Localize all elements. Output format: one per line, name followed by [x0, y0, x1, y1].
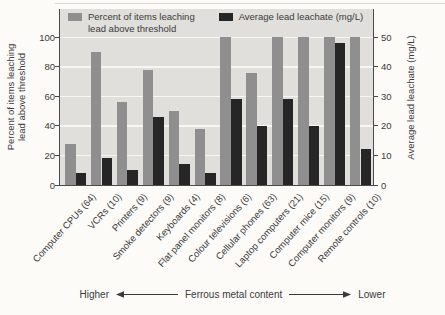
bar-leachate-3 [153, 117, 164, 185]
left-tick-80 [55, 66, 59, 67]
right-tick-10 [374, 155, 378, 156]
bar-leachate-6 [231, 99, 242, 185]
plot-area [59, 9, 373, 185]
bar-leachate-0 [76, 173, 87, 185]
left-tick-40 [55, 125, 59, 126]
right-tick-0 [374, 185, 378, 186]
bar-leachate-7 [257, 126, 268, 185]
right-tick-40 [374, 66, 378, 67]
leachate-series-swatch [219, 13, 233, 21]
left-axis-title-line2: lead above threshold [16, 27, 27, 167]
legend-percent-label: Percent of items leaching lead above thr… [88, 11, 195, 34]
bar-percent-2 [117, 102, 128, 185]
left-tick-label-40: 40 [28, 120, 55, 131]
bar-percent-4 [169, 111, 180, 185]
left-axis-title-line1: Percent of items leaching [5, 27, 16, 167]
right-tick-label-0: 0 [381, 180, 408, 191]
arrow-right-icon [289, 290, 351, 299]
legend: Percent of items leaching lead above thr… [68, 11, 363, 34]
lead-leachate-chart: Percent of items leaching lead above thr… [0, 0, 445, 315]
left-tick-label-20: 20 [28, 150, 55, 161]
right-tick-label-40: 40 [381, 61, 408, 72]
left-tick-label-60: 60 [28, 91, 55, 102]
left-tick-100 [55, 37, 59, 38]
right-tick-30 [374, 96, 378, 97]
bar-percent-7 [246, 73, 257, 185]
page-edge-line [55, 3, 445, 4]
bar-percent-9 [298, 37, 309, 185]
bar-leachate-2 [127, 170, 138, 185]
bar-leachate-9 [309, 126, 320, 185]
right-tick-label-30: 30 [381, 91, 408, 102]
footer-higher-label: Higher [80, 289, 109, 300]
legend-percent-line2: lead above threshold [88, 23, 195, 35]
right-tick-label-10: 10 [381, 150, 408, 161]
arrow-left-icon [116, 290, 178, 299]
bar-leachate-4 [179, 164, 190, 185]
right-tick-label-50: 50 [381, 32, 408, 43]
percent-series-swatch [68, 13, 82, 21]
legend-percent-line1: Percent of items leaching [88, 11, 195, 23]
legend-item-percent: Percent of items leaching lead above thr… [68, 11, 195, 34]
bar-leachate-10 [335, 43, 346, 185]
left-tick-20 [55, 155, 59, 156]
right-tick-50 [374, 37, 378, 38]
bar-leachate-5 [205, 173, 216, 185]
left-tick-0 [55, 185, 59, 186]
bar-percent-6 [220, 37, 231, 185]
bar-percent-0 [65, 144, 76, 185]
bar-leachate-1 [102, 158, 113, 185]
left-axis-title: Percent of items leaching lead above thr… [5, 27, 27, 167]
y-axis-left-line [59, 9, 60, 186]
bar-percent-11 [350, 37, 361, 185]
legend-leachate-label: Average lead leachate (mg/L) [239, 11, 363, 23]
right-tick-20 [374, 125, 378, 126]
bar-leachate-11 [361, 149, 372, 185]
right-tick-label-20: 20 [381, 120, 408, 131]
ferrous-content-annotation: Higher Ferrous metal content Lower [50, 289, 415, 300]
left-tick-label-0: 0 [28, 180, 55, 191]
legend-item-leachate: Average lead leachate (mg/L) [219, 11, 363, 23]
bar-percent-1 [91, 52, 102, 185]
footer-center-label: Ferrous metal content [185, 289, 282, 300]
bar-percent-8 [272, 37, 283, 185]
bar-leachate-8 [283, 99, 294, 185]
footer-lower-label: Lower [358, 289, 385, 300]
x-axis-line [59, 185, 374, 186]
left-tick-60 [55, 96, 59, 97]
left-tick-label-100: 100 [28, 32, 55, 43]
bar-percent-10 [324, 37, 335, 185]
left-tick-label-80: 80 [28, 61, 55, 72]
bar-percent-5 [195, 129, 206, 185]
bar-percent-3 [143, 70, 154, 185]
x-label-0: Computer CPUs (64) [30, 191, 98, 264]
